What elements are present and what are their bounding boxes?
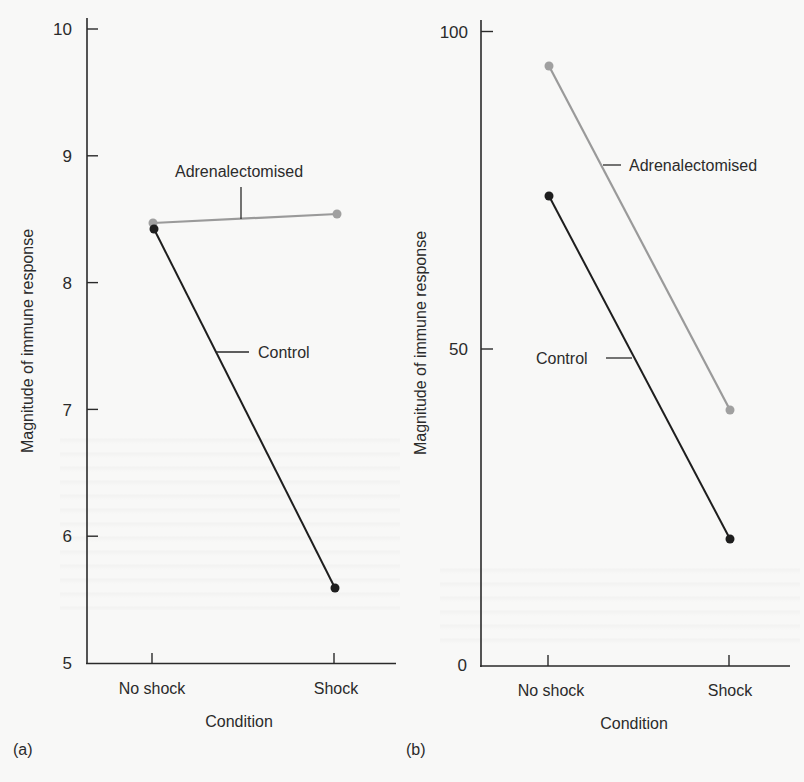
y-tick-label: 9 [63,147,72,166]
series-control [150,225,340,593]
x-axis-label: Condition [600,715,668,732]
x-axis-label: Condition [205,713,273,730]
y-tick-label: 100 [440,23,468,42]
x-tick-label-shock: Shock [708,682,753,699]
series-label-control: Control [536,350,632,367]
data-point [333,210,342,219]
svg-text:Control: Control [258,344,310,361]
series-label-adrenalectomised: Adrenalectomised [175,163,303,219]
svg-text:Control: Control [536,350,588,367]
svg-text:Adrenalectomised: Adrenalectomised [175,163,303,180]
svg-text:Adrenalectomised: Adrenalectomised [629,157,757,174]
x-tick-labels: No shock Shock [119,680,360,697]
y-tick-label: 6 [63,527,72,546]
data-point [331,584,340,593]
panel-label-a: (a) [13,741,33,758]
x-tick-label-shock: Shock [314,680,359,697]
y-tick-label: 5 [63,654,72,673]
data-point [726,535,735,544]
data-point [545,192,554,201]
series-adrenalectomised [149,210,342,228]
y-tick-labels: 100 50 0 [440,23,468,675]
series-label-adrenalectomised: Adrenalectomised [603,157,757,174]
panel-label-b: (b) [406,741,426,758]
data-point [545,62,554,71]
x-tick-label-no-shock: No shock [518,682,586,699]
data-point [726,406,735,415]
figure: 10 9 8 7 6 5 No shock Shock Condition Ma… [0,0,804,782]
series-label-control: Control [216,344,310,361]
y-tick-label: 8 [63,274,72,293]
y-tick-label: 10 [53,20,72,39]
y-tick-label: 0 [458,656,467,675]
y-tick-labels: 10 9 8 7 6 5 [53,20,72,673]
series-control [545,192,735,544]
y-tick-label: 7 [63,401,72,420]
x-ticks [152,653,334,664]
y-axis-label: Magnitude of immune response [412,231,429,455]
y-axis-label: Magnitude of immune response [19,229,36,453]
x-tick-labels: No shock Shock [518,682,754,699]
y-tick-label: 50 [449,340,468,359]
chart-panel-a: 10 9 8 7 6 5 No shock Shock Condition Ma… [13,18,396,758]
chart-panel-b: 100 50 0 No shock Shock Condition Magnit… [406,20,790,758]
x-tick-label-no-shock: No shock [119,680,187,697]
x-ticks [548,655,729,666]
data-point [150,225,159,234]
y-ticks [481,32,493,350]
y-ticks [87,29,98,536]
